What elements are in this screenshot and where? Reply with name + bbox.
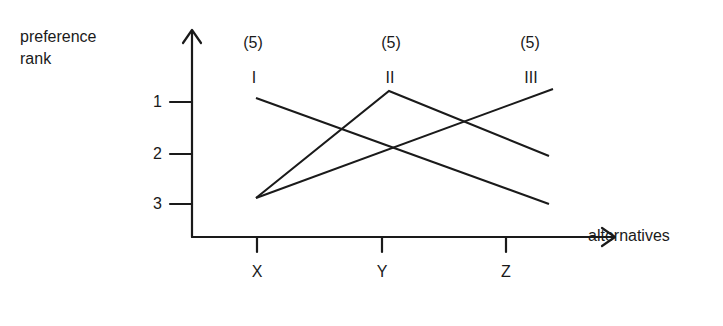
voter-I-weight: (5) [243, 34, 263, 52]
y-tick-label-1: 1 [153, 93, 162, 111]
diagram-canvas [0, 0, 723, 326]
voter-II-weight: (5) [381, 34, 401, 52]
voter-I-label: I [252, 69, 256, 87]
line-voter-III [256, 89, 553, 198]
x-tick-label-z: Z [501, 263, 511, 281]
voter-III-label: III [524, 69, 537, 87]
y-tick-label-3: 3 [153, 195, 162, 213]
y-axis-label: preference rank [20, 28, 97, 68]
y-tick-label-2: 2 [153, 145, 162, 163]
line-voter-I [256, 98, 549, 204]
x-tick-label-y: Y [377, 263, 388, 281]
x-tick-label-x: X [252, 263, 263, 281]
voter-III-weight: (5) [520, 34, 540, 52]
x-axis-label: alternatives [588, 227, 670, 245]
voter-II-label: II [386, 69, 395, 87]
